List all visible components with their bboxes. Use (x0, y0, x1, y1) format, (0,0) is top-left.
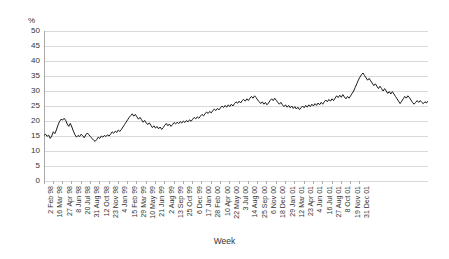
plot-area (44, 31, 428, 181)
x-axis-tick-label: 28 Feb 00 (214, 186, 221, 218)
x-axis-tick-label: 6 Nov 00 (270, 186, 277, 214)
x-axis-tick-label: 23 Nov 98 (112, 186, 119, 218)
x-axis-tick-label: 19 Nov 01 (354, 186, 361, 218)
x-axis-tick-label: 25 Sep 00 (261, 186, 268, 218)
y-axis-tick-30: 30 (4, 87, 40, 95)
y-axis-tick-0: 0 (4, 177, 40, 185)
x-axis-tick-label: 2 Feb 98 (47, 186, 54, 214)
x-axis-tick-label: 25 Oct 99 (186, 186, 193, 216)
x-axis-tick-label: 8 Jun 98 (75, 186, 82, 213)
x-axis-tick-label: 31 Aug 98 (93, 186, 100, 218)
x-axis-tick-label: 20 Jul 98 (84, 186, 91, 214)
x-axis-tick-label: 14 Aug 00 (251, 186, 258, 218)
y-axis-tick-10: 10 (4, 147, 40, 155)
x-axis-tick-label: 2 Aug 99 (168, 186, 175, 214)
x-axis-tick-label: 8 Oct 01 (344, 186, 351, 212)
x-axis-title: Week (0, 236, 449, 246)
x-axis-tick-label: 22 May 00 (233, 186, 240, 219)
x-axis-tick-label: 12 Oct 98 (103, 186, 110, 216)
chart-canvas (44, 31, 428, 187)
x-axis-tick-label: 31 Dec 01 (363, 186, 370, 218)
x-axis-tick-label: 27 Aug 01 (335, 186, 342, 218)
line-chart: % 50454035302520151050 2 Feb 9816 Mar 98… (0, 0, 449, 259)
y-axis-tick-40: 40 (4, 57, 40, 65)
y-axis-tick-45: 45 (4, 42, 40, 50)
y-axis-tick-25: 25 (4, 102, 40, 110)
x-axis-tick-label: 6 Dec 99 (196, 186, 203, 214)
y-axis-tick-50: 50 (4, 27, 40, 35)
x-axis-tick-label: 13 Sep 99 (177, 186, 184, 218)
x-axis-tick-label: 12 Mar 01 (298, 186, 305, 218)
x-axis-tick-label: 4 Jan 99 (121, 186, 128, 213)
x-axis-tick-label: 15 Feb 99 (131, 186, 138, 218)
x-axis-tick-label: 29 Mar 99 (140, 186, 147, 218)
x-axis-tick-label: 17 Jan 00 (205, 186, 212, 217)
y-axis-tick-20: 20 (4, 117, 40, 125)
x-axis-tick-label: 27 Apr 98 (66, 186, 73, 216)
y-axis-tick-15: 15 (4, 132, 40, 140)
x-axis-tick-label: 10 Apr 00 (224, 186, 231, 216)
x-axis-tick-label: 4 Jun 01 (316, 186, 323, 213)
y-axis-tick-labels: 50454035302520151050 (0, 0, 40, 259)
x-axis-tick-label: 18 Dec 00 (279, 186, 286, 218)
x-axis-tick-label: 21 Jun 99 (158, 186, 165, 217)
data-series-line (44, 73, 428, 141)
y-axis-tick-5: 5 (4, 162, 40, 170)
x-axis-tick-label: 29 Jan 01 (289, 186, 296, 217)
y-axis-tick-35: 35 (4, 72, 40, 80)
x-axis-tick-label: 16 Mar 98 (56, 186, 63, 218)
x-axis-tick-label: 10 May 99 (149, 186, 156, 219)
x-axis-tick-label: 3 Jul 00 (242, 186, 249, 211)
x-axis-tick-label: 16 Jul 01 (326, 186, 333, 214)
x-axis-tick-label: 23 Apr 01 (307, 186, 314, 216)
